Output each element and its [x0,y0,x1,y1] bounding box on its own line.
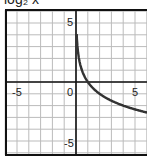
y-tick-label: -5 [64,137,74,149]
x-tick-label: -5 [12,86,22,98]
chart-plot-area: -5 0 5 5 -5 [0,0,147,164]
x-tick-label: 5 [132,86,138,98]
y-tick-label: 5 [67,16,73,28]
x-tick-label: 0 [67,86,73,98]
